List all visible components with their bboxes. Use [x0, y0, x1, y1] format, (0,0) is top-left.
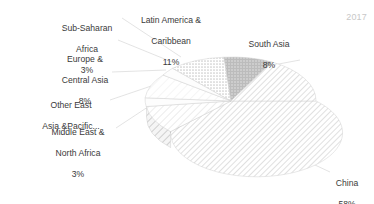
slice-label-south-asia-line1: South Asia [232, 39, 306, 49]
slice-label-other-east-asia-pacific-line1: Other East [12, 100, 130, 110]
slice-label-sub-saharan-africa-line1: Sub-Saharan [44, 23, 130, 33]
slice-label-middle-east-north-africa-line2: North Africa [26, 148, 130, 158]
slice-label-europe-central-asia-line2: Central Asia [41, 75, 129, 85]
slice-label-middle-east-north-africa-line1: Middle East & [26, 127, 130, 137]
slice-label-china-value: 58% [325, 199, 369, 204]
slice-label-south-asia: South Asia 8% [232, 29, 306, 81]
slice-label-south-asia-value: 8% [232, 60, 306, 70]
slice-label-europe-central-asia-line1: Europe & [41, 54, 129, 64]
slice-label-middle-east-north-africa: Middle East & North Africa 3% [26, 117, 130, 190]
slice-label-latin-america-caribbean-line1: Latin America & [125, 15, 217, 25]
slice-label-middle-east-north-africa-value: 3% [26, 169, 130, 179]
slice-label-latin-america-caribbean-value: 11% [125, 57, 217, 67]
slice-label-china: China 58% [325, 168, 369, 204]
slice-label-latin-america-caribbean-line2: Caribbean [125, 36, 217, 46]
slice-label-latin-america-caribbean: Latin America & Caribbean 11% [125, 5, 217, 78]
slice-label-china-line1: China [325, 178, 369, 188]
pie-chart-figure: Sub-Saharan Africa 3% Latin America & Ca… [0, 0, 374, 204]
year-annotation: 2017 [346, 12, 367, 22]
